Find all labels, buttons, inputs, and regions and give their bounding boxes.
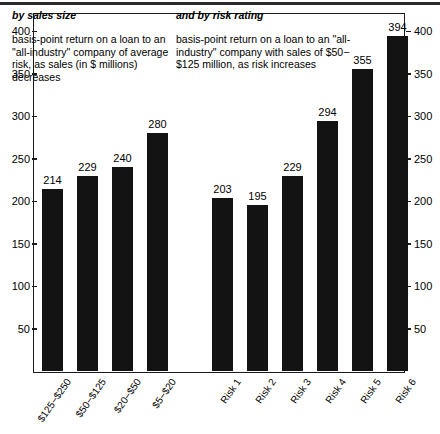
bar[interactable] <box>112 167 133 371</box>
bar-item[interactable]: 229 <box>77 14 98 371</box>
bar-value-label: 240 <box>113 153 131 164</box>
x-axis-category-label: Risk 1 <box>219 377 243 406</box>
bar-item[interactable]: 214 <box>42 14 63 371</box>
axis-tick-label: 250 <box>414 154 432 165</box>
axis-tick-label: 200 <box>12 196 30 207</box>
bar[interactable] <box>352 69 373 371</box>
axis-tick-label: 200 <box>414 196 432 207</box>
axis-tick-label: 300 <box>414 111 432 122</box>
x-axis-category-label: $20−$50 <box>112 377 143 415</box>
bar-value-label: 394 <box>388 22 406 33</box>
axis-tick-label: 300 <box>12 111 30 122</box>
axis-tick-label: 100 <box>414 281 432 292</box>
bar-value-label: 195 <box>248 191 266 202</box>
bar-value-label: 280 <box>148 119 166 130</box>
bar[interactable] <box>317 121 338 371</box>
bars-layer: 214229240280203195229294355394 <box>34 14 403 371</box>
axis-tick-label: 50 <box>414 324 426 335</box>
axis-tick-label: 50 <box>18 324 30 335</box>
y-axis-left: 40035030025020015010050 <box>0 13 32 373</box>
axis-tick-label: 150 <box>12 239 30 250</box>
bar[interactable] <box>247 205 268 371</box>
x-axis-category-label: Risk 4 <box>324 377 348 406</box>
axis-tick-label: 100 <box>12 281 30 292</box>
axis-tick-label: 150 <box>414 239 432 250</box>
bar-value-label: 229 <box>78 162 96 173</box>
x-axis-category-label: $5−$20 <box>150 377 177 410</box>
bar-value-label: 294 <box>318 107 336 118</box>
bar-item[interactable]: 203 <box>212 14 233 371</box>
bar-chart-figure: by sales size basis-point return on a lo… <box>0 0 440 434</box>
x-axis-category-label: Risk 2 <box>254 377 278 406</box>
axis-tick-label: 350 <box>12 69 30 80</box>
bar-item[interactable]: 355 <box>352 14 373 371</box>
bar-item[interactable]: 394 <box>387 14 408 371</box>
x-axis-category-label: Risk 6 <box>394 377 418 406</box>
y-axis-right: 40035030025020015010050 <box>406 13 438 373</box>
bar-value-label: 229 <box>283 162 301 173</box>
x-axis-category-label: Risk 5 <box>359 377 383 406</box>
bar[interactable] <box>42 189 63 371</box>
axis-tick-label: 350 <box>414 69 432 80</box>
bar[interactable] <box>147 133 168 371</box>
bar-value-label: 355 <box>353 55 371 66</box>
bar-item[interactable]: 195 <box>247 14 268 371</box>
axis-tick-label: 400 <box>414 26 432 37</box>
axis-tick-label: 400 <box>12 26 30 37</box>
bar-value-label: 214 <box>43 175 61 186</box>
bar[interactable] <box>77 176 98 371</box>
bar[interactable] <box>212 198 233 371</box>
bar-item[interactable]: 240 <box>112 14 133 371</box>
x-axis-category-label: Risk 3 <box>289 377 313 406</box>
x-axis-category-label: $125−$250 <box>36 377 73 424</box>
bar-value-label: 203 <box>213 184 231 195</box>
axis-tick-label: 250 <box>12 154 30 165</box>
bar-item[interactable]: 294 <box>317 14 338 371</box>
bar-item[interactable]: 280 <box>147 14 168 371</box>
x-axis-labels: $125−$250$50−$125$20−$50$5−$20Risk 1Risk… <box>34 374 403 434</box>
x-axis-category-label: $50−$125 <box>74 377 108 419</box>
bar-item[interactable]: 229 <box>282 14 303 371</box>
bar[interactable] <box>282 176 303 371</box>
bar[interactable] <box>387 36 408 371</box>
